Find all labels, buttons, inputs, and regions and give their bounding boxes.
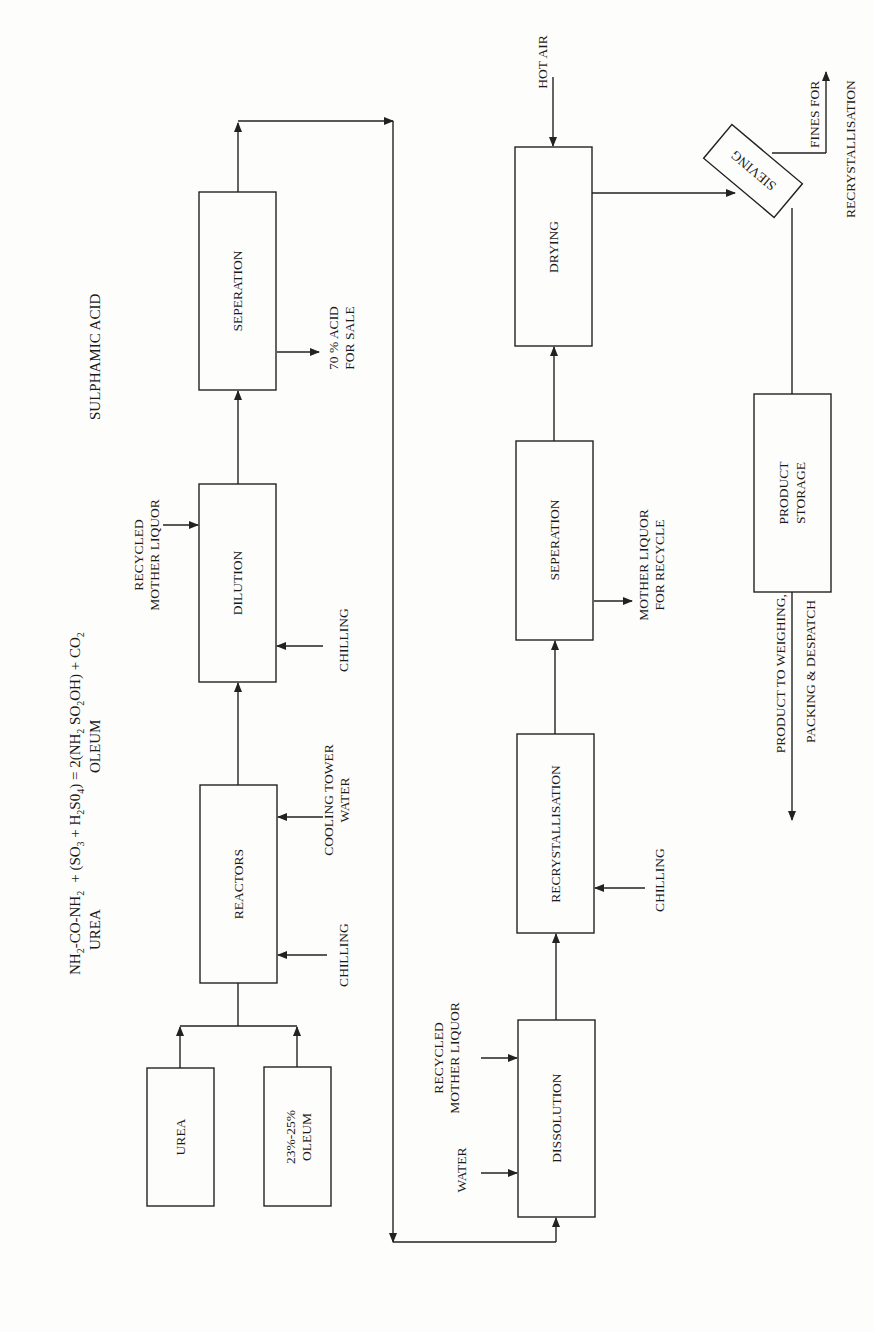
box-oleum-label-1: 23%-25% [283, 1110, 298, 1164]
equation-label-sulphamic-acid: SULPHAMIC ACID [87, 294, 103, 420]
box-dissolution-label: DISSOLUTION [549, 1073, 564, 1162]
box-reactors: REACTORS [200, 785, 277, 983]
svg-text:CHILLING: CHILLING [336, 923, 351, 987]
svg-text:MOTHER LIQUOR: MOTHER LIQUOR [147, 499, 162, 610]
output-product-dispatch: PRODUCT TO WEIGHING, PACKING & DESPATCH [773, 592, 818, 820]
input-reactor-chilling: CHILLING [278, 923, 351, 987]
svg-text:FOR SALE: FOR SALE [342, 306, 357, 369]
svg-text:RECRYSTALLISATION: RECRYSTALLISATION [843, 80, 858, 218]
svg-text:PACKING & DESPATCH: PACKING & DESPATCH [803, 600, 818, 743]
svg-text:PRODUCT TO WEIGHING,: PRODUCT TO WEIGHING, [773, 594, 788, 753]
output-70-acid-for-sale: 70 % ACID FOR SALE [277, 306, 357, 370]
box-separation-2-label: SEPERATION [547, 499, 562, 580]
box-product-storage-label-2: STORAGE [793, 462, 808, 524]
svg-text:MOTHER LIQUOR: MOTHER LIQUOR [636, 509, 651, 620]
box-dissolution: DISSOLUTION [518, 1020, 595, 1217]
connector-stage1-to-stage2 [238, 121, 556, 1242]
box-oleum: 23%-25% OLEUM [264, 1067, 331, 1206]
feed-connector [180, 983, 297, 1068]
svg-text:RECYCLED: RECYCLED [431, 1022, 446, 1094]
box-drying: DRYING [515, 147, 592, 346]
output-mother-liquor-for-recycle: MOTHER LIQUOR FOR RECYCLE [594, 509, 667, 620]
svg-text:CHILLING: CHILLING [652, 848, 667, 912]
svg-text:RECYCLED: RECYCLED [131, 519, 146, 591]
input-water: WATER [454, 1148, 517, 1193]
input-recrystallisation-chilling: CHILLING [595, 848, 667, 912]
svg-text:WATER: WATER [337, 778, 352, 823]
box-product-storage-label-1: PRODUCT [776, 461, 791, 525]
input-recycled-mother-liquor-1: RECYCLED MOTHER LIQUOR [131, 499, 198, 610]
box-urea: UREA [147, 1068, 214, 1206]
equation-line: NH2-CO-NH2+ (SO3 + H2S04) = 2(NH2 SO2OH)… [67, 632, 86, 975]
box-separation-2: SEPERATION [516, 441, 593, 640]
svg-text:70 % ACID: 70 % ACID [326, 306, 341, 370]
equation-label-oleum: OLEUM [87, 720, 103, 773]
box-dilution: DILUTION [199, 484, 276, 682]
box-separation-1-label: SEPERATION [230, 250, 245, 331]
input-dilution-chilling: CHILLING [277, 608, 351, 672]
svg-text:COOLING TOWER: COOLING TOWER [321, 744, 336, 856]
box-separation-1: SEPERATION [199, 192, 276, 390]
svg-text:MOTHER LIQUOR: MOTHER LIQUOR [447, 1002, 462, 1113]
svg-text:FINES FOR: FINES FOR [807, 81, 822, 148]
reaction-equation: NH2-CO-NH2+ (SO3 + H2S04) = 2(NH2 SO2OH)… [67, 294, 103, 975]
box-dilution-label: DILUTION [230, 551, 245, 616]
box-product-storage: PRODUCT STORAGE [754, 394, 831, 592]
box-oleum-label-2: OLEUM [299, 1113, 314, 1161]
box-reactors-label: REACTORS [231, 849, 246, 919]
output-fines-for-recrystallisation: FINES FOR RECRYSTALLISATION [772, 72, 858, 218]
svg-text:WATER: WATER [454, 1148, 469, 1193]
svg-text:FOR RECYCLE: FOR RECYCLE [652, 519, 667, 610]
box-sieving: SIEVING [704, 125, 803, 218]
box-urea-label: UREA [173, 1118, 188, 1155]
box-drying-label: DRYING [546, 221, 561, 273]
box-recrystallisation-label: RECRYSTALLISATION [548, 765, 563, 903]
process-flow-diagram: NH2-CO-NH2+ (SO3 + H2S04) = 2(NH2 SO2OH)… [0, 0, 874, 1332]
equation-label-urea: UREA [87, 909, 103, 950]
svg-text:CHILLING: CHILLING [336, 608, 351, 672]
svg-text:HOT AIR: HOT AIR [535, 35, 550, 88]
input-hot-air: HOT AIR [535, 35, 553, 146]
input-recycled-mother-liquor-2: RECYCLED MOTHER LIQUOR [431, 1002, 517, 1113]
input-cooling-tower-water: COOLING TOWER WATER [278, 744, 352, 856]
box-recrystallisation: RECRYSTALLISATION [517, 734, 594, 933]
box-sieving-label: SIEVING [728, 147, 779, 193]
diagram-page: NH2-CO-NH2+ (SO3 + H2S04) = 2(NH2 SO2OH)… [0, 0, 874, 1332]
